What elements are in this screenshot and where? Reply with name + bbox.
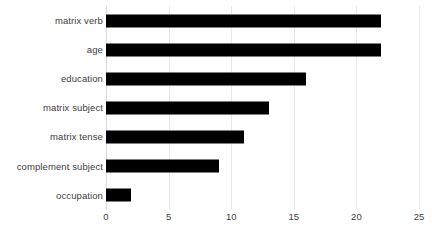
bar-chart: matrix verbageeducationmatrix subjectmat… xyxy=(0,0,434,245)
value-axis-tick-labels: 0510152025 xyxy=(106,212,419,232)
tick-label-20: 20 xyxy=(351,212,362,222)
bar-series xyxy=(106,6,419,210)
bar-row xyxy=(106,181,419,210)
tick-label-0: 0 xyxy=(103,212,108,222)
category-label-age: age xyxy=(0,35,103,64)
category-label-text: age xyxy=(87,45,103,55)
bar[interactable] xyxy=(106,72,306,85)
category-label-matrix-verb: matrix verb xyxy=(0,6,103,35)
bar-row xyxy=(106,93,419,122)
bar[interactable] xyxy=(106,101,269,114)
category-label-text: matrix verb xyxy=(55,16,103,26)
category-label-text: matrix tense xyxy=(50,132,103,142)
bar-row xyxy=(106,64,419,93)
category-label-matrix-tense: matrix tense xyxy=(0,123,103,152)
category-axis-labels: matrix verbageeducationmatrix subjectmat… xyxy=(0,6,103,210)
category-label-occupation: occupation xyxy=(0,181,103,210)
category-label-text: education xyxy=(61,74,103,84)
category-label-text: occupation xyxy=(56,191,103,201)
plot-area xyxy=(106,6,419,210)
bar-row xyxy=(106,123,419,152)
category-label-education: education xyxy=(0,64,103,93)
bar-row xyxy=(106,35,419,64)
tick-label-5: 5 xyxy=(166,212,171,222)
gridline-25 xyxy=(419,6,420,210)
category-label-complement-subject: complement subject xyxy=(0,152,103,181)
category-label-text: complement subject xyxy=(17,162,103,172)
bar[interactable] xyxy=(106,14,381,27)
bar[interactable] xyxy=(106,189,131,202)
category-label-matrix-subject: matrix subject xyxy=(0,93,103,122)
bar[interactable] xyxy=(106,43,381,56)
bar[interactable] xyxy=(106,160,219,173)
tick-label-15: 15 xyxy=(289,212,300,222)
bar[interactable] xyxy=(106,131,244,144)
tick-label-25: 25 xyxy=(414,212,425,222)
category-label-text: matrix subject xyxy=(43,103,103,113)
tick-label-10: 10 xyxy=(226,212,237,222)
bar-row xyxy=(106,6,419,35)
bar-row xyxy=(106,152,419,181)
